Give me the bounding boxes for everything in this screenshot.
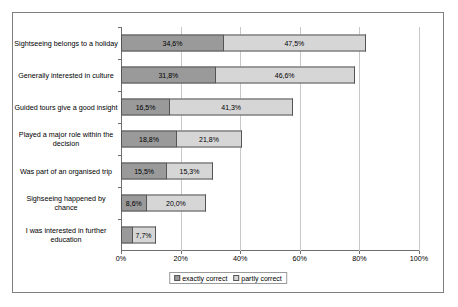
bar-value-label: 47,5%: [284, 40, 304, 47]
bar-row[interactable]: 34,6%47,5%: [121, 35, 366, 52]
x-axis-tick-label: 100%: [410, 254, 428, 263]
category-label: Guided tours give a good insight: [14, 103, 118, 112]
bar-segment[interactable]: 8,6%: [121, 195, 147, 212]
y-axis-tick: [118, 59, 121, 60]
category-label: Generally interested in culture: [14, 71, 118, 80]
bar-segment[interactable]: 47,5%: [224, 35, 366, 52]
y-axis-tick: [118, 27, 121, 28]
bar-segment[interactable]: 15,5%: [121, 163, 167, 180]
legend-swatch-icon: [174, 275, 180, 281]
bar-segment[interactable]: 21,8%: [177, 131, 242, 148]
bar-value-label: 20,0%: [166, 200, 186, 207]
y-axis-tick: [118, 219, 121, 220]
bar-value-label: 31,8%: [158, 72, 178, 79]
bar-value-label: 18,8%: [139, 136, 159, 143]
chart-plot-wrapper: Sightseeing belongs to a holidayGenerall…: [13, 13, 443, 292]
bar-segment[interactable]: 20,0%: [147, 195, 207, 212]
y-axis-tick: [118, 123, 121, 124]
category-label: Sighseeing happened by chance: [14, 194, 118, 212]
bar-segment[interactable]: 18,8%: [121, 131, 177, 148]
bar-value-label: 7,7%: [136, 232, 152, 239]
grid-line: [359, 27, 360, 251]
bar-segment[interactable]: 46,6%: [216, 67, 355, 84]
bar-row[interactable]: 8,6%20,0%: [121, 195, 206, 212]
bar-segment[interactable]: 31,8%: [121, 67, 216, 84]
bar-value-label: 41,3%: [221, 104, 241, 111]
legend-swatch-icon: [233, 275, 239, 281]
legend-item-exactly-correct: exactly correct: [174, 275, 227, 282]
bar-segment[interactable]: 41,3%: [170, 99, 293, 116]
bar-value-label: 15,3%: [180, 168, 200, 175]
y-axis-tick: [118, 155, 121, 156]
bar-row[interactable]: 15,5%15,3%: [121, 163, 213, 180]
x-axis-tick-label: 0%: [116, 254, 126, 263]
category-axis-labels: Sightseeing belongs to a holidayGenerall…: [13, 27, 121, 251]
bar-segment[interactable]: 16,5%: [121, 99, 170, 116]
legend-item-partly-correct: partly correct: [233, 275, 281, 282]
bar-value-label: 46,6%: [275, 72, 295, 79]
bar-segment[interactable]: 7,7%: [133, 227, 156, 244]
bar-row[interactable]: 16,5%41,3%: [121, 99, 293, 116]
x-axis-tick-label: 20%: [173, 254, 187, 263]
category-label: Played a major role within the decision: [14, 130, 118, 148]
plot-area: 34,6%47,5%31,8%46,6%16,5%41,3%18,8%21,8%…: [121, 27, 419, 251]
bar-segment[interactable]: 3,9%: [121, 227, 133, 244]
bar-segment[interactable]: 34,6%: [121, 35, 224, 52]
bar-row[interactable]: 18,8%21,8%: [121, 131, 242, 148]
x-axis-tick-labels: 0%20%40%60%80%100%: [121, 254, 419, 266]
category-label: Was part of an organised trip: [14, 167, 118, 176]
bar-row[interactable]: 3,9%7,7%: [121, 227, 156, 244]
legend-label: exactly correct: [182, 275, 227, 282]
category-label: I was interested in further education: [14, 226, 118, 244]
y-axis-tick: [118, 187, 121, 188]
x-axis-tick-label: 60%: [293, 254, 307, 263]
chart-legend: exactly correct partly correct: [169, 272, 287, 284]
bar-value-label: 15,5%: [134, 168, 154, 175]
grid-line: [419, 27, 420, 251]
grid-line: [300, 27, 301, 251]
bar-value-label: 16,5%: [136, 104, 156, 111]
bar-value-label: 21,8%: [199, 136, 219, 143]
bar-value-label: 8,6%: [126, 200, 142, 207]
bar-segment[interactable]: 15,3%: [167, 163, 213, 180]
category-label: Sightseeing belongs to a holiday: [14, 39, 118, 48]
x-axis-line: [121, 250, 419, 251]
bar-value-label: 34,6%: [163, 40, 183, 47]
chart-frame: Sightseeing belongs to a holidayGenerall…: [12, 12, 444, 293]
bar-row[interactable]: 31,8%46,6%: [121, 67, 355, 84]
x-axis-tick-label: 80%: [352, 254, 366, 263]
x-axis-tick-label: 40%: [233, 254, 247, 263]
y-axis-tick: [118, 91, 121, 92]
legend-label: partly correct: [241, 275, 281, 282]
